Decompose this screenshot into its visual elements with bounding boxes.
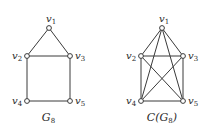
vertex-label-v3: v3 [188, 50, 198, 63]
graph-label-G8: G8 [42, 111, 55, 125]
edge-v1-v3 [162, 28, 183, 56]
vertex-label-v4: v4 [12, 95, 23, 108]
vertex-v4 [25, 99, 30, 104]
edge-v1-v2 [141, 28, 162, 56]
vertex-v4 [139, 99, 144, 104]
vertex-label-v1: v1 [159, 13, 169, 26]
vertex-label-v1: v1 [46, 13, 56, 26]
edge-v1-v2 [27, 28, 49, 56]
graph-diagram: v1v2v3v4v5G8 v1v2v3v4v5C(G8) [0, 0, 210, 133]
vertex-v3 [181, 54, 186, 59]
vertex-v1 [47, 26, 52, 31]
edge-v1-v3 [49, 28, 70, 56]
vertex-v5 [68, 99, 73, 104]
vertex-v3 [68, 54, 73, 59]
vertex-label-v5: v5 [188, 95, 198, 108]
graph-g8: v1v2v3v4v5G8 [12, 13, 85, 125]
vertex-v2 [25, 54, 30, 59]
vertex-label-v5: v5 [75, 95, 85, 108]
graph-label-C(G8): C(G8) [147, 111, 177, 125]
vertex-label-v3: v3 [75, 50, 85, 63]
graph-complement-g8: v1v2v3v4v5C(G8) [126, 13, 198, 125]
vertex-label-v4: v4 [126, 95, 137, 108]
vertex-v1 [160, 26, 165, 31]
vertex-v2 [139, 54, 144, 59]
vertex-label-v2: v2 [12, 50, 22, 63]
vertex-v5 [181, 99, 186, 104]
vertex-label-v2: v2 [126, 50, 136, 63]
